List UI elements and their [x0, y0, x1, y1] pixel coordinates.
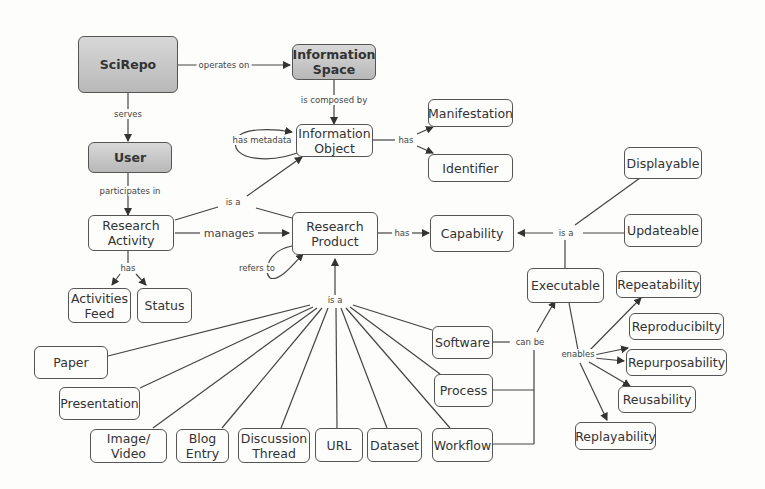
link-refers-to: refers to — [237, 263, 277, 273]
node-workflow[interactable]: Workflow — [432, 428, 493, 462]
node-manifestation[interactable]: Manifestation — [428, 99, 513, 127]
node-updateable[interactable]: Updateable — [624, 214, 702, 247]
link-has-capability: has — [392, 228, 411, 238]
node-replayability[interactable]: Replayability — [575, 422, 656, 450]
node-identifier[interactable]: Identifier — [428, 154, 513, 182]
node-research-product[interactable]: Research Product — [292, 212, 378, 255]
link-is-a-capability: is a — [557, 228, 576, 238]
node-process[interactable]: Process — [434, 374, 493, 407]
node-status[interactable]: Status — [137, 288, 192, 323]
link-manages: manages — [202, 227, 257, 240]
link-is-a-top: is a — [224, 197, 243, 207]
node-executable[interactable]: Executable — [527, 268, 604, 303]
link-is-composed-by: is composed by — [299, 95, 369, 105]
node-blog-entry[interactable]: Blog Entry — [176, 429, 229, 463]
link-serves: serves — [112, 109, 144, 119]
node-presentation[interactable]: Presentation — [59, 387, 140, 420]
node-paper[interactable]: Paper — [34, 346, 108, 379]
link-operates-on: operates on — [197, 60, 252, 70]
node-repurposability[interactable]: Repurposability — [626, 349, 727, 376]
node-repeatability[interactable]: Repeatability — [616, 271, 701, 298]
node-reproducibility[interactable]: Reproducibilty — [629, 313, 724, 340]
node-url[interactable]: URL — [315, 428, 363, 462]
node-research-activity[interactable]: Research Activity — [88, 215, 174, 251]
link-can-be: can be — [514, 337, 547, 347]
node-displayable[interactable]: Displayable — [624, 147, 702, 179]
node-dataset[interactable]: Dataset — [367, 428, 422, 462]
node-capability[interactable]: Capability — [430, 215, 514, 252]
link-has-activity: has — [118, 263, 137, 273]
node-discussion-thread[interactable]: Discussion Thread — [238, 428, 310, 463]
node-information-object[interactable]: Information Object — [296, 124, 373, 157]
link-has-metadata: has metadata — [231, 135, 294, 145]
link-has-info: has — [396, 135, 415, 145]
link-enables: enables — [559, 349, 596, 359]
concept-map: SciRepo Information Space User Informati… — [0, 0, 765, 489]
link-participates-in: participates in — [98, 186, 163, 196]
node-information-space[interactable]: Information Space — [292, 44, 376, 80]
node-scirepo[interactable]: SciRepo — [78, 36, 178, 93]
node-activities-feed[interactable]: Activities Feed — [68, 288, 131, 323]
node-software[interactable]: Software — [432, 326, 493, 359]
node-reusability[interactable]: Reusability — [618, 386, 696, 413]
node-user[interactable]: User — [88, 142, 172, 173]
node-image-video[interactable]: Image/ Video — [90, 429, 167, 463]
link-is-a-bottom: is a — [326, 295, 345, 305]
